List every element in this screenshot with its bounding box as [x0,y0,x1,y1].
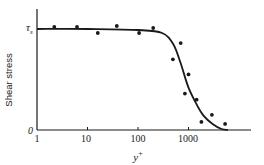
y-axis-label: Shear stress [3,53,14,106]
data-point [151,26,155,30]
data-point [115,24,119,28]
data-point [137,31,141,35]
x-axis-label: y+ [133,149,142,163]
x-tick-1000: 1000 [178,134,198,144]
tau-s-label: τs [26,21,33,36]
data-point [52,25,56,29]
x-tick-100: 100 [131,134,146,144]
data-point [200,120,204,124]
data-point [210,113,214,117]
data-point [187,73,191,77]
y-tick-zero: 0 [28,126,33,136]
data-point [179,41,183,45]
fitted-curve [37,29,228,130]
data-point [195,98,199,102]
data-point [183,92,187,96]
x-tick-1: 1 [35,134,40,144]
data-point [223,122,227,126]
x-tick-10: 10 [81,134,91,144]
data-point [75,25,79,29]
data-point [171,57,175,61]
data-point [96,31,100,35]
